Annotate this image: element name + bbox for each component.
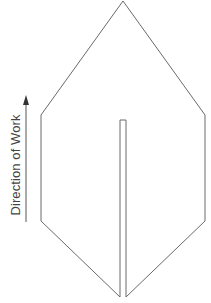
blade-outline-graphic [0,0,211,303]
blade-diagram: Direction of Work [0,0,211,303]
direction-of-work-label: Direction of Work [9,114,23,215]
blade-outline [41,1,205,297]
arrow-up-icon [23,95,29,105]
